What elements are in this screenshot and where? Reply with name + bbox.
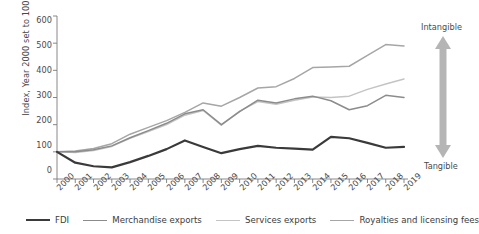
x-tick-2004: 2004 (128, 171, 148, 191)
x-tick-2011: 2011 (256, 171, 276, 191)
x-tick-2008: 2008 (201, 171, 221, 191)
legend-spacer (316, 220, 330, 221)
x-tick-2003: 2003 (110, 171, 130, 191)
x-tick-2015: 2015 (329, 171, 349, 191)
x-tick-2002: 2002 (92, 171, 112, 191)
x-tick-2001: 2001 (73, 171, 93, 191)
x-tick-2016: 2016 (347, 171, 367, 191)
chart-container: Index, Year 2000 set to 100 600 500 400 … (0, 0, 479, 234)
x-axis-tick-labels: 2000200120022003200420052006200720082009… (0, 0, 479, 234)
legend-label: Merchandise exports (112, 215, 202, 225)
chart-legend: FDIMerchandise exportsServices exportsRo… (0, 210, 479, 230)
legend-item-services-exports[interactable]: Services exports (216, 215, 316, 225)
annotation-tangible: Tangible (424, 161, 458, 171)
x-tick-2005: 2005 (146, 171, 166, 191)
legend-spacer (69, 220, 83, 221)
legend-item-merchandise-exports[interactable]: Merchandise exports (83, 215, 202, 225)
legend-item-fdi[interactable]: FDI (26, 215, 69, 225)
legend-item-royalties-and-licensing-fees[interactable]: Royalties and licensing fees (330, 215, 479, 225)
legend-swatch-icon (83, 220, 107, 221)
legend-spacer (202, 220, 216, 221)
x-tick-2017: 2017 (365, 171, 385, 191)
legend-label: FDI (55, 215, 69, 225)
x-tick-2010: 2010 (238, 171, 258, 191)
x-tick-2019: 2019 (402, 171, 422, 191)
x-tick-2000: 2000 (55, 171, 75, 191)
legend-swatch-icon (330, 220, 354, 221)
x-tick-2009: 2009 (219, 171, 239, 191)
legend-label: Services exports (245, 215, 316, 225)
x-tick-2007: 2007 (183, 171, 203, 191)
x-tick-2018: 2018 (384, 171, 404, 191)
x-tick-2014: 2014 (311, 171, 331, 191)
x-tick-2013: 2013 (292, 171, 312, 191)
legend-label: Royalties and licensing fees (359, 215, 479, 225)
x-tick-2006: 2006 (165, 171, 185, 191)
legend-swatch-icon (216, 220, 240, 221)
x-tick-2012: 2012 (274, 171, 294, 191)
annotation-intangible: Intangible (421, 22, 462, 32)
legend-swatch-icon (26, 219, 50, 221)
